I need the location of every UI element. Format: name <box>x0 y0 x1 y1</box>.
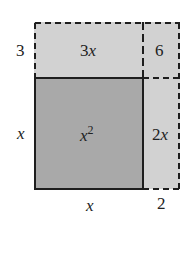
corner-value: 6 <box>155 41 164 60</box>
bottom-right-dimension-text: 2 <box>157 194 166 213</box>
right-strip-variable: x <box>161 125 169 144</box>
left-top-dimension: 3 <box>16 42 25 59</box>
right-strip-label: 2x <box>152 126 168 143</box>
x-squared-exponent: 2 <box>88 123 94 137</box>
bottom-right-dimension: 2 <box>157 195 166 212</box>
top-strip-label: 3x <box>80 42 96 59</box>
left-bottom-dimension: x <box>17 125 25 142</box>
x-squared-base: x <box>80 126 88 145</box>
left-top-dimension-text: 3 <box>16 41 25 60</box>
bottom-left-dimension: x <box>86 197 94 214</box>
right-strip-coefficient: 2 <box>152 125 161 144</box>
top-strip-variable: x <box>89 41 97 60</box>
top-strip-coefficient: 3 <box>80 41 89 60</box>
x-squared-label: x2 <box>80 124 94 144</box>
left-bottom-dimension-text: x <box>17 124 25 143</box>
corner-label: 6 <box>155 42 164 59</box>
bottom-left-dimension-text: x <box>86 196 94 215</box>
